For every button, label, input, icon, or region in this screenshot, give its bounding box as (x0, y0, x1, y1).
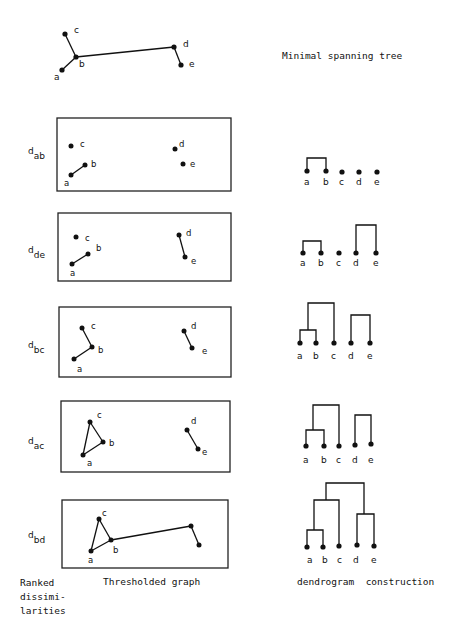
dendrograms: abcde abcde abcde abcde abcde (0, 0, 452, 590)
svg-text:c: c (336, 258, 341, 268)
thresholded-graph-label: Thresholded graph (103, 576, 200, 587)
svg-text:a: a (297, 351, 303, 361)
svg-text:a: a (304, 177, 310, 187)
svg-text:a: a (300, 258, 306, 268)
svg-text:b: b (321, 455, 327, 465)
svg-text:b: b (318, 258, 324, 268)
svg-text:d: d (356, 177, 362, 187)
svg-text:e: e (367, 351, 373, 361)
svg-text:c: c (337, 555, 342, 565)
svg-text:e: e (373, 258, 379, 268)
svg-text:d: d (353, 258, 359, 268)
svg-text:d: d (348, 351, 354, 361)
svg-text:a: a (307, 555, 313, 565)
svg-text:c: c (336, 455, 341, 465)
svg-text:b: b (322, 555, 328, 565)
ranked-dissimilarities-label: Ranked dissimi- larities (20, 576, 66, 618)
svg-text:e: e (371, 555, 377, 565)
svg-text:b: b (313, 351, 319, 361)
svg-text:b: b (323, 177, 329, 187)
svg-text:e: e (374, 177, 380, 187)
dendrogram-construction-label: dendrogram construction (297, 576, 434, 587)
svg-text:d: d (352, 455, 358, 465)
svg-text:e: e (368, 455, 374, 465)
svg-text:a: a (303, 455, 309, 465)
svg-text:d: d (353, 555, 359, 565)
svg-text:c: c (331, 351, 336, 361)
svg-text:c: c (339, 177, 344, 187)
